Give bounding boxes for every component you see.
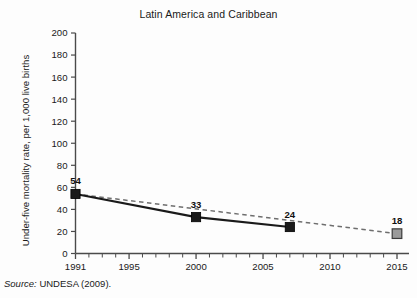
data-point-label: 18 [392, 215, 403, 226]
x-tick-label: 2015 [386, 261, 407, 272]
data-point-markers-observed [71, 189, 295, 231]
x-tick-label: 2005 [252, 261, 273, 272]
y-tick-label: 140 [51, 94, 67, 105]
source-label: Source: [4, 278, 37, 289]
x-axis-minor-ticks [76, 254, 398, 260]
series-observed [76, 194, 290, 227]
y-tick-label: 80 [57, 160, 68, 171]
x-tick-label: 1995 [118, 261, 139, 272]
x-axis-tick-labels: 199119952000200520102015 [65, 261, 408, 272]
series-target-trend [76, 194, 398, 234]
plot-area: 020406080100120140160180200 199119952000… [0, 0, 417, 298]
data-point-label: 54 [70, 175, 81, 186]
data-point-labels: 54332418 [70, 175, 403, 226]
x-tick-label: 2010 [319, 261, 340, 272]
x-tick-label: 1991 [65, 261, 86, 272]
target-point-marker [392, 229, 402, 239]
y-axis-tick-labels: 020406080100120140160180200 [51, 27, 67, 259]
y-tick-label: 200 [51, 27, 67, 38]
y-tick-label: 160 [51, 72, 67, 83]
data-point-marker [71, 189, 80, 198]
data-point-label: 24 [284, 209, 295, 220]
source-note: Source: UNDESA (2009). [4, 278, 111, 289]
y-tick-label: 120 [51, 116, 67, 127]
chart-figure: Latin America and Caribbean Under-five m… [0, 0, 417, 298]
x-tick-label: 2000 [185, 261, 206, 272]
y-tick-label: 180 [51, 49, 67, 60]
source-text: UNDESA (2009). [39, 278, 111, 289]
y-tick-label: 100 [51, 138, 67, 149]
y-tick-label: 0 [62, 248, 67, 259]
data-point-marker [191, 213, 200, 222]
data-point-marker [285, 222, 294, 231]
y-tick-label: 20 [57, 226, 68, 237]
y-tick-label: 40 [57, 204, 68, 215]
data-point-label: 33 [191, 199, 202, 210]
data-point-marker-target [392, 229, 402, 239]
y-tick-label: 60 [57, 182, 68, 193]
